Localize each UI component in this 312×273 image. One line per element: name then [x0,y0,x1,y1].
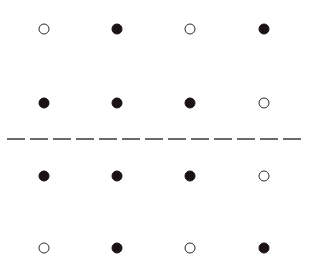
filled-dot-icon [185,171,196,182]
open-dot-icon [185,24,196,35]
filled-dot-icon [39,171,50,182]
dot-grid-diagram [0,0,312,273]
dashed-line-graphic [7,137,301,141]
filled-dot-icon [39,98,50,109]
filled-dot-icon [112,98,123,109]
open-dot-icon [259,171,270,182]
open-dot-icon [39,24,50,35]
open-dot-icon [39,243,50,254]
open-dot-icon [259,98,270,109]
open-dot-icon [185,243,196,254]
filled-dot-icon [112,24,123,35]
filled-dot-icon [259,24,270,35]
filled-dot-icon [112,171,123,182]
filled-dot-icon [185,98,196,109]
filled-dot-icon [112,243,123,254]
filled-dot-icon [259,243,270,254]
